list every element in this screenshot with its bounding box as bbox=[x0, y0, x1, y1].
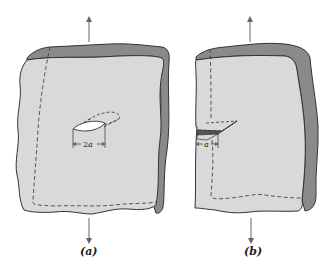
fracture-specimen-figure: 2a (a) a (b) bbox=[0, 0, 333, 275]
plate-front-face bbox=[16, 56, 164, 214]
panel-caption-b: (b) bbox=[244, 245, 262, 258]
panel-a: 2a (a) bbox=[16, 19, 169, 258]
crack-length-label: 2a bbox=[83, 140, 93, 149]
panel-caption-a: (a) bbox=[80, 245, 98, 258]
crack-length-label: a bbox=[204, 140, 209, 149]
panel-b: a (b) bbox=[195, 19, 318, 258]
